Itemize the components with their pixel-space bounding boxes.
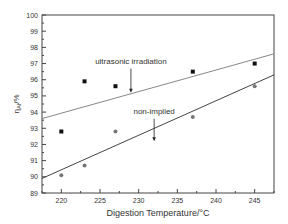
y-tick-label: 93 (30, 125, 38, 132)
y-tick-label: 91 (30, 157, 38, 164)
x-tick-label: 245 (249, 197, 261, 204)
data-points (59, 62, 256, 178)
annotation-label: ultrasonic irradiation (95, 57, 167, 66)
x-tick-label: 230 (133, 197, 145, 204)
data-point-circle (191, 115, 195, 119)
scatter-chart: 8990919293949596979899100 22022523023524… (0, 0, 288, 224)
data-point-square (113, 84, 117, 88)
data-point-square (253, 62, 257, 66)
x-tick-label: 225 (94, 197, 106, 204)
data-point-circle (83, 163, 87, 167)
x-axis-ticks: 220225230235240245 (42, 189, 274, 204)
data-point-square (59, 130, 63, 134)
y-tick-label: 89 (30, 190, 38, 197)
y-axis-label: ηAl/% (12, 94, 22, 113)
fit-lines (42, 54, 274, 179)
data-point-square (83, 79, 87, 83)
annotations: ultrasonic irradiationnon-implied (95, 57, 175, 142)
data-point-circle (59, 173, 63, 177)
data-point-circle (113, 130, 117, 134)
plot-frame (42, 15, 274, 193)
y-tick-label: 94 (30, 109, 38, 116)
y-axis-ticks: 8990919293949596979899100 (26, 12, 46, 197)
data-point-circle (253, 84, 257, 88)
svg-text:ηAl/%: ηAl/% (12, 94, 22, 113)
y-tick-label: 97 (30, 60, 38, 67)
y-tick-label: 99 (30, 28, 38, 35)
data-point-square (191, 70, 195, 74)
x-tick-label: 220 (55, 197, 67, 204)
y-tick-label: 96 (30, 76, 38, 83)
x-axis-label: Digestion Temperature/°C (107, 208, 210, 218)
x-tick-label: 235 (171, 197, 183, 204)
x-tick-label: 240 (210, 197, 222, 204)
y-tick-label: 98 (30, 44, 38, 51)
y-tick-label: 90 (30, 173, 38, 180)
fit-line (42, 75, 274, 179)
annotation-label: non-implied (133, 107, 174, 116)
y-tick-label: 100 (26, 12, 38, 19)
y-tick-label: 95 (30, 92, 38, 99)
y-tick-label: 92 (30, 141, 38, 148)
